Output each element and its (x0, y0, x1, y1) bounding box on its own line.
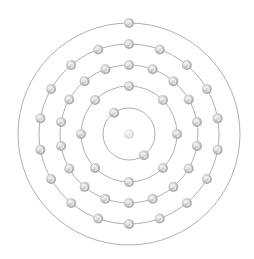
bohr-model-diagram (0, 0, 254, 259)
electron-icon (76, 129, 86, 139)
electron-icon (93, 214, 103, 224)
electron-icon (148, 194, 158, 204)
electron-icon (124, 81, 134, 91)
electron-icon (168, 182, 178, 192)
electron-icon (124, 198, 134, 208)
electron-icon (202, 174, 212, 184)
electron-icon (109, 108, 119, 118)
electron-icon (184, 95, 194, 105)
electron-icon (124, 219, 134, 229)
electron-icon (158, 95, 168, 105)
electron-icon (184, 164, 194, 174)
nucleus (124, 129, 134, 139)
electron-icon (213, 145, 223, 155)
electron-icon (93, 44, 103, 54)
electron-icon (46, 174, 56, 184)
electron-icon (124, 177, 134, 187)
electron-icon (124, 18, 134, 28)
nucleus-icon (124, 129, 134, 139)
electron-icon (168, 76, 178, 86)
electron-icon (192, 141, 202, 151)
electron-icon (182, 60, 192, 70)
electron-icon (80, 182, 90, 192)
electron-icon (56, 117, 66, 127)
electron-icon (90, 163, 100, 173)
electron-icon (124, 39, 134, 49)
electron-icon (100, 194, 110, 204)
electron-icon (64, 164, 74, 174)
electron-icon (64, 95, 74, 105)
electron-icon (155, 214, 165, 224)
electron-icon (155, 44, 165, 54)
electron-icon (172, 129, 182, 139)
electron-icon (90, 95, 100, 105)
electron-icon (124, 60, 134, 70)
electron-icon (66, 198, 76, 208)
electron-icon (182, 198, 192, 208)
electron-icon (46, 84, 56, 94)
electron-icon (35, 113, 45, 123)
electron-icon (66, 60, 76, 70)
electron-icon (192, 117, 202, 127)
electron-icon (148, 64, 158, 74)
electron-icon (80, 76, 90, 86)
electron-icon (213, 113, 223, 123)
electrons (35, 18, 222, 229)
electron-icon (35, 145, 45, 155)
electron-icon (100, 64, 110, 74)
electron-icon (139, 150, 149, 160)
electron-icon (56, 141, 66, 151)
electron-icon (202, 84, 212, 94)
electron-icon (158, 163, 168, 173)
